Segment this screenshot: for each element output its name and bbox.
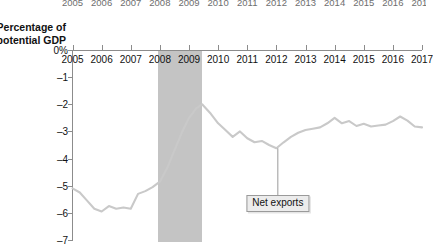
net-exports-annotation-label: Net exports xyxy=(246,195,309,212)
